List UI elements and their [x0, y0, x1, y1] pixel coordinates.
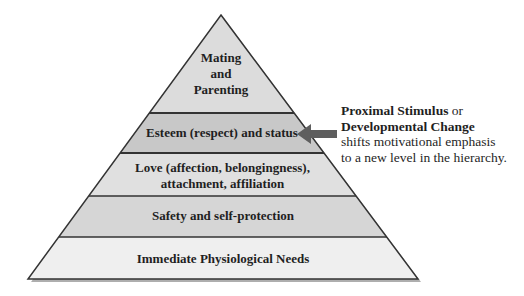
callout-or: or [448, 103, 463, 118]
level-physiological-label: Immediate Physiological Needs [28, 251, 418, 267]
callout-text: Proximal Stimulus or Developmental Chang… [341, 103, 521, 165]
level-mating-label: Mating and Parenting [161, 50, 281, 98]
label-line: Immediate Physiological Needs [28, 251, 418, 267]
level-love-label: Love (affection, belongingness), attachm… [89, 160, 356, 192]
label-line: Parenting [161, 82, 281, 98]
label-line: Mating [161, 50, 281, 66]
label-line: Esteem (respect) and status [120, 125, 324, 141]
callout-bold-proximal: Proximal Stimulus [341, 103, 448, 118]
label-line: attachment, affiliation [89, 176, 356, 192]
level-safety-label: Safety and self-protection [59, 208, 387, 224]
label-line: Safety and self-protection [59, 208, 387, 224]
callout-line-1: Proximal Stimulus or [341, 103, 521, 119]
callout-bold-developmental: Developmental Change [341, 119, 475, 134]
label-line: Love (affection, belongingness), [89, 160, 356, 176]
callout-line-3: shifts motivational emphasis [341, 134, 521, 150]
level-esteem-label: Esteem (respect) and status [120, 125, 324, 141]
label-line: and [161, 66, 281, 82]
callout-line-4: to a new level in the hierarchy. [341, 150, 521, 166]
callout-line-2: Developmental Change [341, 119, 521, 135]
